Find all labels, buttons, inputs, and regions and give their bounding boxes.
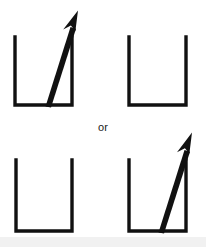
or-connector-label: or xyxy=(0,121,206,134)
top-left-cup-outline xyxy=(15,37,72,105)
top-left-cup xyxy=(15,37,72,105)
bottom-gray-band xyxy=(0,237,206,247)
bottom-right-cup-outline xyxy=(129,160,186,231)
top-right-cup xyxy=(129,37,186,105)
bottom-left-cup xyxy=(16,160,72,231)
top-right-cup-outline xyxy=(129,37,186,105)
bottom-right-cup xyxy=(129,160,186,231)
bottom-left-cup-outline xyxy=(16,160,72,231)
figure-canvas: or xyxy=(0,0,206,247)
